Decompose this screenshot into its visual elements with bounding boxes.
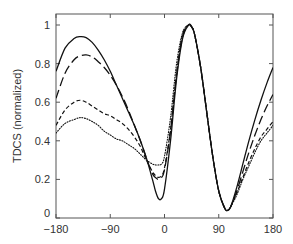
x-tick-label: −90 [101,223,120,235]
x-tick-label: 0 [161,223,167,235]
x-tick-label: −180 [44,223,69,235]
x-tick-label: 90 [213,223,225,235]
x-tick-label: 180 [264,223,282,235]
y-axis-label: TDCS (normalized) [11,69,23,163]
y-tick-label: 0.4 [35,135,50,147]
plot-series [56,24,273,210]
y-tick-label: 0.2 [35,173,50,185]
y-tick-label: 1 [44,19,50,31]
tdcs-line-chart: −180−9009018000.20.40.60.81TDCS (normali… [0,0,293,244]
series-short-dash [56,25,273,211]
y-tick-label: 0 [44,207,50,219]
y-tick-label: 0.8 [35,58,50,70]
axis-labels: −180−9009018000.20.40.60.81TDCS (normali… [11,19,282,235]
y-tick-label: 0.6 [35,96,50,108]
